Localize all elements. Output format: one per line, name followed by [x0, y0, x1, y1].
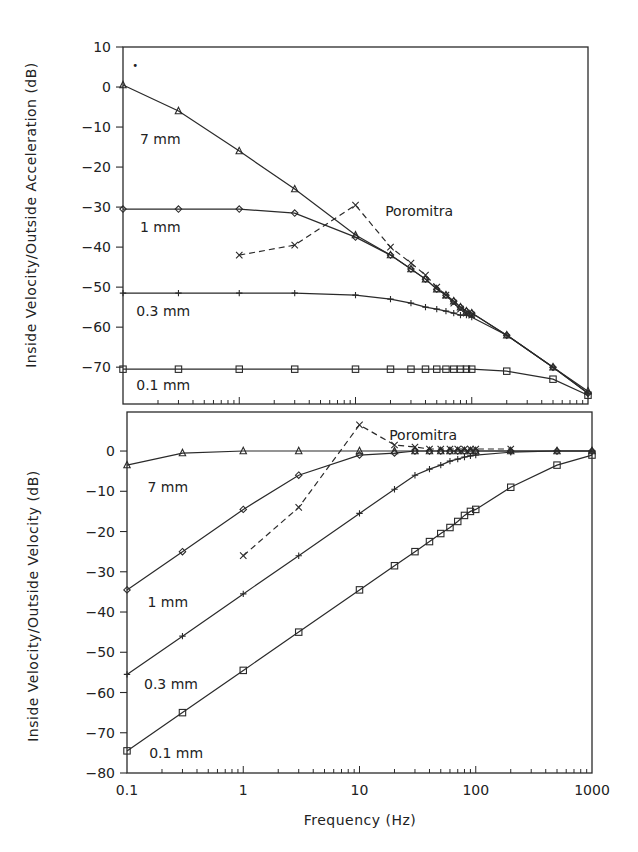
plus-marker: [451, 310, 457, 316]
x-marker: [296, 504, 302, 510]
y-tick-label: −60: [81, 319, 111, 335]
series-line: [127, 455, 592, 751]
y-tick-label: −20: [81, 159, 111, 175]
plus-marker: [120, 290, 126, 296]
x-marker: [422, 272, 428, 278]
plus-marker: [426, 466, 432, 472]
series-03-mm: 0.3 mm: [124, 448, 595, 693]
y-tick-label: 10: [93, 39, 111, 55]
series-01-mm: 0.1 mm: [120, 366, 591, 398]
series-label: 1 mm: [147, 594, 188, 610]
x-tick-label: 1000: [574, 782, 610, 798]
plus-marker: [408, 300, 414, 306]
series-1-mm: 1 mm: [124, 448, 595, 610]
series-label: 0.3 mm: [136, 303, 190, 319]
series-line: [127, 451, 592, 674]
y-tick-label: −30: [85, 564, 115, 580]
series-01-mm: 0.1 mm: [124, 452, 595, 761]
plus-marker: [175, 290, 181, 296]
x-tick-label: 10: [351, 782, 369, 798]
plus-marker: [457, 312, 463, 318]
annotation-dot: •: [132, 60, 138, 71]
plus-marker: [387, 296, 393, 302]
series-label: Poromitra: [389, 427, 457, 443]
series-line: [123, 369, 588, 395]
series-line: [123, 293, 588, 393]
top-panel: 100−10−20−30−40−50−60−707 mm1 mm0.3 mm0.…: [81, 39, 591, 404]
plus-marker: [447, 458, 453, 464]
series-line: [127, 451, 592, 590]
series-label: 0.1 mm: [136, 377, 190, 393]
y-tick-label: −20: [85, 524, 115, 540]
bottom-y-axis-label: Inside Velocity/Outside Velocity (dB): [25, 470, 41, 742]
x-marker: [356, 422, 362, 428]
top-y-axis-label: Inside Velocity/Outside Acceleration (dB…: [23, 62, 39, 368]
y-tick-label: −10: [81, 119, 111, 135]
plus-marker: [292, 290, 298, 296]
plus-marker: [352, 292, 358, 298]
x-marker: [240, 552, 246, 558]
plus-marker: [461, 454, 467, 460]
series-poromitra: Poromitra: [236, 202, 475, 318]
y-tick-label: 0: [102, 79, 111, 95]
series-label: 1 mm: [140, 219, 181, 235]
y-tick-label: −80: [85, 765, 115, 781]
plus-marker: [443, 308, 449, 314]
plot-frame: [123, 47, 588, 404]
plus-marker: [455, 456, 461, 462]
series-label: 7 mm: [140, 131, 181, 147]
plus-marker: [434, 306, 440, 312]
series-line: [239, 205, 471, 315]
y-tick-label: −10: [85, 483, 115, 499]
figure: 100−10−20−30−40−50−60−707 mm1 mm0.3 mm0.…: [0, 0, 638, 852]
y-tick-label: −40: [85, 604, 115, 620]
x-tick-label: 0.1: [116, 782, 138, 798]
x-marker: [352, 202, 358, 208]
y-tick-label: −70: [81, 359, 111, 375]
series-label: Poromitra: [385, 203, 453, 219]
y-tick-label: −60: [85, 685, 115, 701]
plus-marker: [422, 304, 428, 310]
y-tick-label: 0: [106, 443, 115, 459]
y-tick-label: −50: [81, 279, 111, 295]
y-tick-label: −70: [85, 725, 115, 741]
series-poromitra: Poromitra: [240, 422, 514, 559]
plus-marker: [236, 290, 242, 296]
bottom-panel: 0−10−20−30−40−50−60−70−800.111010010007 …: [85, 412, 609, 798]
series-label: 0.1 mm: [149, 745, 203, 761]
y-tick-label: −50: [85, 644, 115, 660]
x-marker: [387, 244, 393, 250]
y-tick-label: −30: [81, 199, 111, 215]
series-label: 0.3 mm: [144, 676, 198, 692]
x-tick-label: 1: [239, 782, 248, 798]
x-axis-label: Frequency (Hz): [304, 812, 417, 828]
plus-marker: [438, 462, 444, 468]
series-03-mm: 0.3 mm: [120, 290, 591, 396]
plot-frame: [127, 412, 592, 773]
x-tick-label: 100: [462, 782, 489, 798]
series-line: [243, 425, 510, 556]
series-1-mm: 1 mm: [120, 206, 591, 397]
y-tick-label: −40: [81, 239, 111, 255]
series-label: 7 mm: [147, 479, 188, 495]
